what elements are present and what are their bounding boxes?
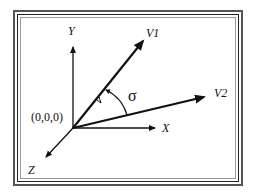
v2-label: V2: [214, 86, 227, 100]
origin-label: (0,0,0): [31, 110, 63, 124]
v1-label: V1: [146, 26, 159, 40]
vector-angle-diagram: Y X Z (0,0,0) V1 V2 σ: [0, 0, 255, 195]
z-axis-label: Z: [28, 163, 35, 177]
angle-label: σ: [128, 87, 137, 104]
x-axis-label: X: [161, 121, 170, 135]
angle-arc: [106, 90, 127, 115]
y-axis-label: Y: [68, 24, 76, 38]
vector-v2: [73, 97, 204, 128]
z-axis: [46, 128, 73, 157]
